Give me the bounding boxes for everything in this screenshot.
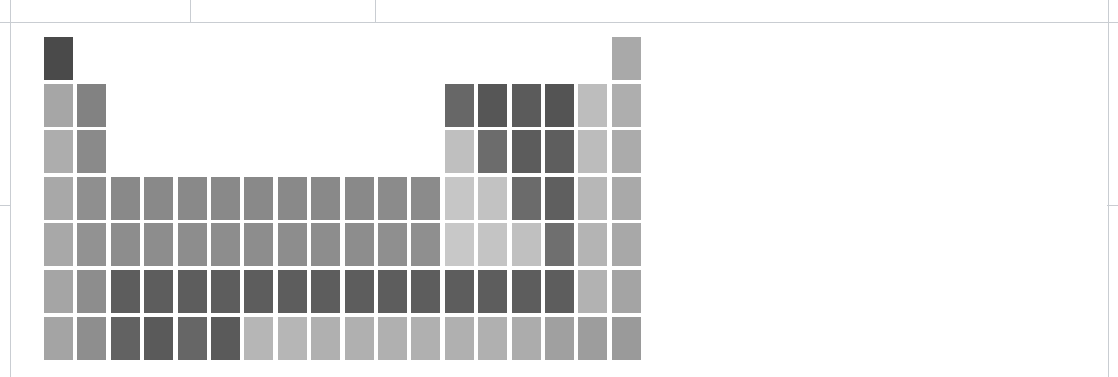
element-cell-sc[interactable] [111,177,140,220]
element-cell-y[interactable] [111,223,140,266]
element-cell-pt[interactable] [345,270,374,313]
element-cell-s[interactable] [545,130,574,173]
element-cell-cn[interactable] [411,317,440,360]
element-cell-fe[interactable] [278,177,307,220]
element-cell-cr[interactable] [211,177,240,220]
element-cell-b[interactable] [445,84,474,127]
element-cell-re[interactable] [244,270,273,313]
element-cell-w[interactable] [211,270,240,313]
element-cell-k[interactable] [44,177,73,220]
element-cell-tl[interactable] [445,270,474,313]
element-cell-cl[interactable] [578,130,607,173]
element-cell-mt[interactable] [311,317,340,360]
element-cell-sb[interactable] [512,223,541,266]
element-cell-au[interactable] [378,270,407,313]
element-cell-ar[interactable] [612,130,641,173]
screenshot-canvas [0,0,1118,377]
element-cell-hs[interactable] [278,317,307,360]
element-cell-ca[interactable] [77,177,106,220]
element-cell-ag[interactable] [378,223,407,266]
element-cell-rn[interactable] [612,270,641,313]
element-cell-xe[interactable] [612,223,641,266]
element-cell-db[interactable] [178,317,207,360]
element-cell-cs[interactable] [44,270,73,313]
element-cell-sn[interactable] [478,223,507,266]
element-cell-ru[interactable] [278,223,307,266]
element-cell-be[interactable] [77,84,106,127]
element-cell-pd[interactable] [345,223,374,266]
element-cell-zr[interactable] [144,223,173,266]
element-cell-fr[interactable] [44,317,73,360]
element-cell-rf[interactable] [144,317,173,360]
element-cell-rb[interactable] [44,223,73,266]
element-cell-c[interactable] [478,84,507,127]
element-cell-ir[interactable] [311,270,340,313]
element-cell-la[interactable] [111,270,140,313]
element-cell-mg[interactable] [77,130,106,173]
element-cell-os[interactable] [278,270,307,313]
element-cell-ts[interactable] [578,317,607,360]
element-cell-sg[interactable] [211,317,240,360]
element-cell-in[interactable] [445,223,474,266]
element-cell-na[interactable] [44,130,73,173]
element-cell-at[interactable] [578,270,607,313]
element-cell-tc[interactable] [244,223,273,266]
element-cell-rg[interactable] [378,317,407,360]
element-cell-se[interactable] [545,177,574,220]
element-cell-i[interactable] [578,223,607,266]
element-cell-pb[interactable] [478,270,507,313]
element-cell-ac[interactable] [111,317,140,360]
element-cell-o[interactable] [545,84,574,127]
element-cell-ni[interactable] [345,177,374,220]
element-cell-br[interactable] [578,177,607,220]
element-cell-co[interactable] [311,177,340,220]
element-cell-n[interactable] [512,84,541,127]
element-cell-li[interactable] [44,84,73,127]
element-cell-ba[interactable] [77,270,106,313]
element-cell-zn[interactable] [411,177,440,220]
element-cell-si[interactable] [478,130,507,173]
element-cell-te[interactable] [545,223,574,266]
element-cell-p[interactable] [512,130,541,173]
element-cell-sr[interactable] [77,223,106,266]
element-cell-ti[interactable] [144,177,173,220]
element-cell-hg[interactable] [411,270,440,313]
element-cell-f[interactable] [578,84,607,127]
element-cell-ta[interactable] [178,270,207,313]
element-cell-h[interactable] [44,37,73,80]
element-cell-he[interactable] [612,37,641,80]
element-cell-nh[interactable] [445,317,474,360]
element-cell-ds[interactable] [345,317,374,360]
element-cell-hf[interactable] [144,270,173,313]
element-cell-ga[interactable] [445,177,474,220]
element-cell-lv[interactable] [545,317,574,360]
element-cell-fl[interactable] [478,317,507,360]
element-cell-po[interactable] [545,270,574,313]
element-cell-bh[interactable] [244,317,273,360]
element-cell-as[interactable] [512,177,541,220]
element-cell-v[interactable] [178,177,207,220]
element-cell-mn[interactable] [244,177,273,220]
element-cell-bi[interactable] [512,270,541,313]
element-cell-nb[interactable] [178,223,207,266]
element-cell-mo[interactable] [211,223,240,266]
element-cell-ra[interactable] [77,317,106,360]
periodic-table-heatmap [0,0,1118,377]
element-cell-ne[interactable] [612,84,641,127]
element-cell-cu[interactable] [378,177,407,220]
element-cell-kr[interactable] [612,177,641,220]
element-cell-al[interactable] [445,130,474,173]
element-cell-rh[interactable] [311,223,340,266]
element-cell-cd[interactable] [411,223,440,266]
element-cell-og[interactable] [612,317,641,360]
element-cell-mc[interactable] [512,317,541,360]
element-cell-ge[interactable] [478,177,507,220]
